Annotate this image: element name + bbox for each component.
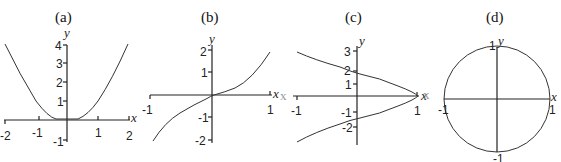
panel-c-ytick-label: 3 [344, 45, 351, 59]
panel-c-y-label: y [357, 33, 365, 48]
panel-a-ytick-label: -1 [53, 135, 64, 149]
panel-b-y-label: y [207, 31, 215, 46]
panel-d-xtick-label: -1 [438, 103, 449, 117]
panel-a-ytick-label: 1 [57, 95, 64, 109]
panel-a-title: (a) [55, 9, 72, 26]
panel-b: (b) -1 1 2 1 -1 -2 x y [142, 9, 279, 148]
panel-a-ytick-label: 2 [56, 76, 63, 90]
panel-d-y-label: y [496, 33, 504, 48]
panel-b-ytick-label: -1 [198, 111, 209, 125]
panel-b-title: (b) [201, 9, 219, 26]
panel-d-clipped-x-label: x [423, 87, 430, 102]
panel-b-ytick-label: -2 [195, 134, 206, 148]
panel-d-title: (d) [486, 9, 504, 26]
panel-d-ytick-label: -1 [493, 152, 504, 162]
panel-d: (d) -1 1 1 -1 x x y [423, 9, 557, 162]
panel-d-ytick-label: 1 [489, 39, 496, 53]
panel-b-xtick-label: 1 [267, 103, 274, 117]
panel-c-ytick-label: 1 [345, 78, 352, 92]
panel-a-xtick-label: 2 [126, 129, 133, 143]
panel-a-xtick-label: -2 [0, 129, 11, 143]
panel-c-clipped-x-label: x [280, 88, 287, 103]
panel-c-xtick-label: -1 [291, 104, 302, 118]
panel-d-x-label: x [550, 89, 557, 104]
panel-c: (c) x -1 1 3 2 1 -1 -2 x y [280, 9, 427, 145]
panel-d-xtick-label: 1 [549, 103, 556, 117]
panel-b-ytick-label: 1 [201, 66, 208, 80]
panel-a-xtick-label: 1 [95, 126, 102, 140]
panel-a: (a) -2 -1 1 2 4 3 2 1 -1 x y [0, 9, 137, 149]
panel-b-ytick-label: 2 [200, 45, 207, 59]
panel-a-x-label: x [130, 110, 137, 125]
panel-c-title: (c) [345, 9, 362, 26]
panel-a-xtick-label: -1 [32, 126, 43, 140]
panel-a-ytick-label: 3 [56, 57, 63, 71]
panel-a-ytick-label: 4 [55, 39, 62, 53]
figure-four-panels: (a) -2 -1 1 2 4 3 2 1 -1 x y (b) [0, 0, 561, 162]
panel-c-xtick-label: 1 [414, 104, 421, 118]
panel-a-y-label: y [62, 25, 70, 40]
panel-c-ytick-label: -1 [341, 106, 352, 120]
panel-b-x-label: x [272, 86, 279, 101]
panel-b-xtick-label: -1 [142, 103, 153, 117]
